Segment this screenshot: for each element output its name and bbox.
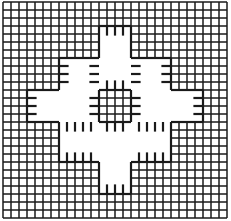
pattern-svg bbox=[0, 0, 231, 221]
grid-pattern-diagram bbox=[0, 0, 231, 221]
